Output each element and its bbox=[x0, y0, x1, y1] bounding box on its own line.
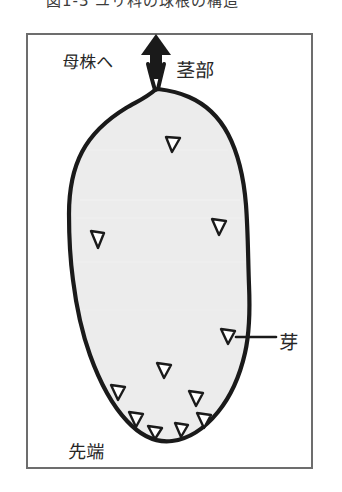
figure-frame bbox=[26, 33, 313, 469]
label-stem: 茎部 bbox=[176, 55, 215, 82]
label-tip: 先端 bbox=[67, 437, 104, 463]
label-bud: 芽 bbox=[279, 327, 299, 354]
figure-caption: 図1-3 ユリ科の球根の構造 bbox=[0, 0, 342, 13]
figure-caption-text: 図1-3 ユリ科の球根の構造 bbox=[46, 0, 239, 11]
figure-page: 図1-3 ユリ科の球根の構造 bbox=[0, 0, 342, 492]
label-mother-plant: 母株へ bbox=[61, 48, 113, 73]
